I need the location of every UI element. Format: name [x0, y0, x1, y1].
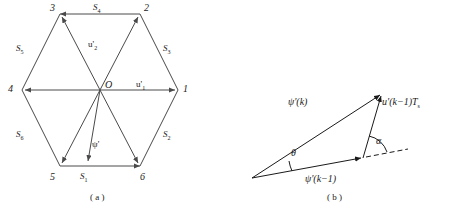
label-u-k-minus-1-ts: u'(k−1)Ts — [382, 97, 420, 109]
panel-a-graphic — [0, 0, 230, 200]
hex-edge-4-5 — [22, 90, 60, 166]
angle-label-theta: θ — [291, 148, 296, 158]
label-psi-k: ψ'(k) — [288, 97, 307, 107]
vertex-label-5: 5 — [50, 172, 55, 182]
panel-a-caption: ( a ) — [90, 193, 105, 202]
vector-label-u1: u'1 — [136, 80, 145, 91]
spoke-O-6 — [100, 90, 138, 163]
sector-label-s4: S4 — [93, 3, 101, 14]
vertex-label-6: 6 — [140, 172, 145, 182]
vector-label-u2: u'2 — [88, 40, 97, 51]
panel-b-graphic — [230, 60, 455, 214]
hex-edge-3-4 — [22, 14, 60, 90]
center-label-O: O — [105, 80, 112, 90]
figure-container: 2 3 1 4 5 6 O S4 S5 S3 S6 S2 S1 u'1 u'2 … — [0, 0, 455, 214]
sector-label-s2: S2 — [163, 130, 171, 141]
vector-label-psi: ψ' — [92, 140, 99, 149]
vertex-label-1: 1 — [183, 84, 188, 94]
hex-edge-6-1 — [140, 90, 178, 166]
hex-edge-1-2 — [140, 14, 178, 90]
vertex-label-2: 2 — [144, 3, 149, 13]
sector-label-s5: S5 — [16, 44, 24, 55]
label-psi-k-minus-1: ψ'(k−1) — [305, 174, 336, 184]
vertex-label-4: 4 — [8, 84, 13, 94]
sector-label-s1: S1 — [80, 172, 88, 183]
vector-u-k-minus-1-ts — [363, 96, 381, 158]
angle-arc-theta — [289, 161, 292, 171]
dashed-extension-line — [366, 149, 408, 157]
spoke-O-3 — [62, 17, 100, 90]
vector-psi-k — [252, 95, 380, 178]
angle-label-alpha: α — [376, 136, 381, 146]
vertex-label-3: 3 — [50, 3, 55, 13]
sector-label-s6: S6 — [16, 130, 24, 141]
sector-label-s3: S3 — [163, 44, 171, 55]
panel-b-caption: ( b ) — [327, 193, 342, 202]
